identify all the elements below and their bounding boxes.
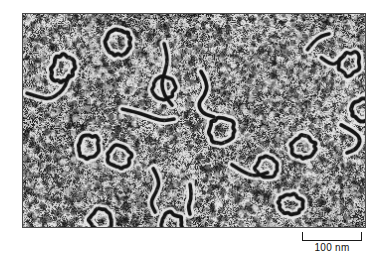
scale-bar-bracket — [302, 232, 362, 241]
micrograph-panel — [22, 13, 366, 228]
micrograph-image — [23, 14, 365, 227]
scale-bar-label: 100 nm — [298, 242, 366, 253]
figure-root: 100 nm — [0, 0, 379, 258]
scale-bar: 100 nm — [302, 232, 364, 256]
